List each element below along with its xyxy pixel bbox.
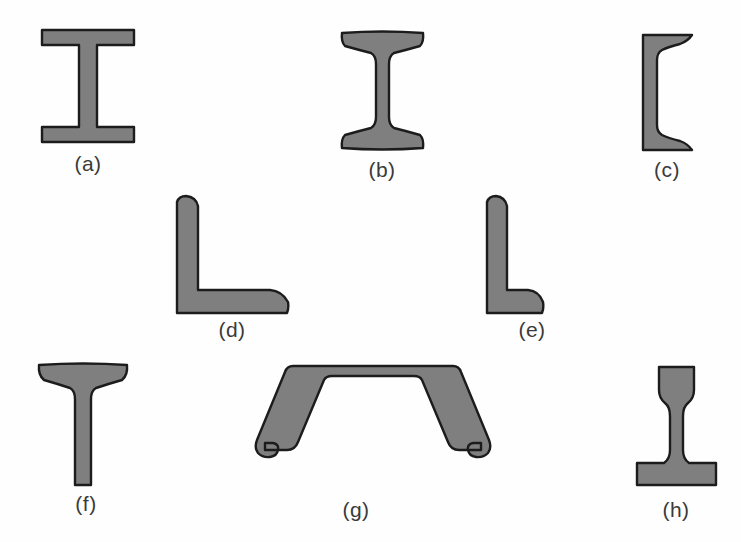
- caption-d: (d): [190, 318, 274, 342]
- shape-s-shape-american-standard-beam: [336, 30, 429, 151]
- caption-g: (g): [314, 498, 398, 522]
- shape-structural-tee: [34, 362, 132, 488]
- shape-w-shape-wide-flange-beam: [40, 28, 136, 144]
- caption-b: (b): [340, 158, 424, 182]
- caption-h: (h): [634, 498, 718, 522]
- c-shape-channel-icon: [640, 33, 694, 152]
- shape-railroad-rail-section: [634, 364, 719, 488]
- railroad-rail-section-icon: [634, 364, 719, 488]
- cold-formed-hat-section-icon: [243, 362, 503, 464]
- s-shape-american-standard-beam-icon: [336, 30, 429, 151]
- structural-tee-icon: [34, 362, 132, 488]
- caption-e: (e): [490, 318, 574, 342]
- unequal-leg-angle-long-vertical-icon: [484, 194, 546, 316]
- shape-c-shape-channel: [640, 33, 694, 152]
- caption-f: (f): [44, 492, 128, 516]
- w-shape-wide-flange-beam-icon: [40, 28, 136, 144]
- structural-shapes-figure: (a) (b) (c) (d) (e) (f) (g: [0, 0, 741, 542]
- shape-cold-formed-hat-section: [243, 362, 503, 464]
- shape-unequal-leg-angle-long-horizontal: [174, 194, 291, 316]
- caption-c: (c): [625, 158, 709, 182]
- caption-a: (a): [46, 152, 130, 176]
- unequal-leg-angle-long-horizontal-icon: [174, 194, 291, 316]
- shape-unequal-leg-angle-long-vertical: [484, 194, 546, 316]
